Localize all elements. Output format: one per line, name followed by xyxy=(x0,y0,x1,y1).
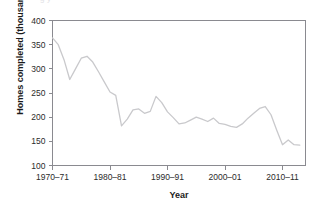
x-tick-label: 1970–71 xyxy=(36,172,69,182)
y-tick-label: 350 xyxy=(31,40,45,50)
x-tick-label: 1990–91 xyxy=(151,172,184,182)
y-tick-label: 250 xyxy=(31,88,45,98)
y-tick-label: 100 xyxy=(31,161,45,171)
plot-frame xyxy=(53,21,306,166)
x-tick-label: 2000–01 xyxy=(208,172,241,182)
y-tick-label: 300 xyxy=(31,64,45,74)
data-series-group xyxy=(53,38,300,145)
data-line-homes-completed xyxy=(53,38,300,145)
x-tick-label: 2010–11 xyxy=(266,172,299,182)
x-tick-label: 1980–81 xyxy=(93,172,126,182)
y-axis-ticks: 100150200250300350400 xyxy=(31,16,52,171)
line-chart-plot: 100150200250300350400 1970–711980–811990… xyxy=(0,0,316,209)
chart-figure: g y Homes completed (thousands) Year 100… xyxy=(0,0,316,209)
x-axis-ticks: 1970–711980–811990–912000–012010–11 xyxy=(36,166,299,182)
y-tick-label: 400 xyxy=(31,16,45,26)
y-tick-label: 150 xyxy=(31,136,45,146)
y-tick-label: 200 xyxy=(31,112,45,122)
